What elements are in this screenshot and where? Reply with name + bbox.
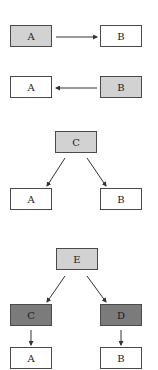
node-b: B	[100, 76, 142, 98]
node-c: C	[10, 304, 52, 326]
arrow-c-to-a	[47, 158, 65, 186]
node-b: B	[100, 347, 142, 369]
node-c: C	[55, 131, 97, 153]
arrow-e-to-d	[87, 276, 106, 302]
node-b: B	[100, 25, 142, 47]
node-e: E	[56, 248, 98, 270]
node-a: A	[10, 347, 52, 369]
node-a: A	[10, 188, 52, 210]
node-a: A	[10, 76, 52, 98]
node-b: B	[100, 188, 142, 210]
node-a: A	[10, 25, 52, 47]
arrow-c-to-b	[87, 158, 106, 186]
node-d: D	[100, 304, 142, 326]
arrow-e-to-c	[47, 276, 65, 302]
